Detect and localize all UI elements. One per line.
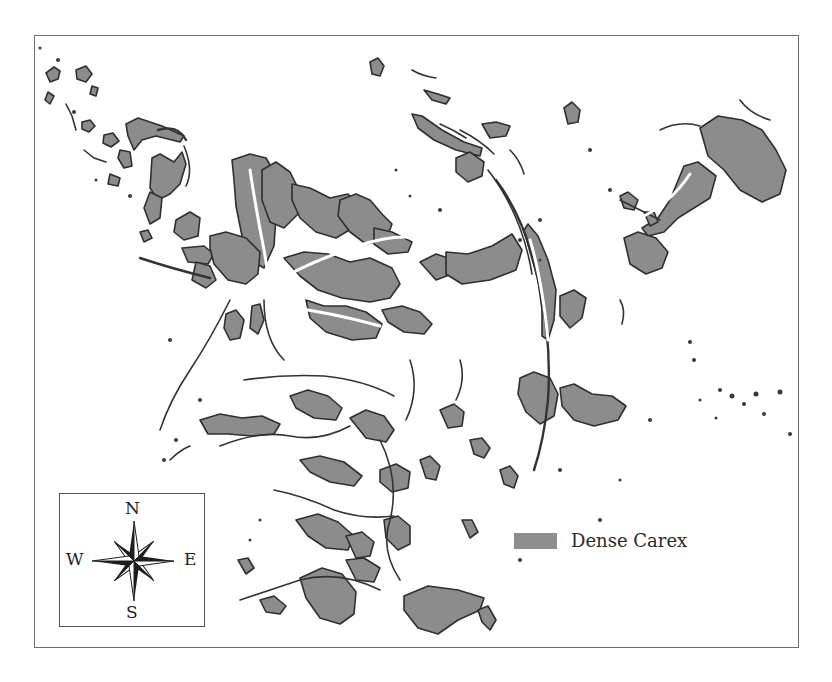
- compass-south-label: S: [126, 602, 138, 622]
- compass-east-label: E: [184, 549, 196, 569]
- compass-north-label: N: [125, 498, 140, 518]
- compass-rose-icon: [90, 518, 178, 604]
- legend-swatch-dense-carex: [514, 533, 557, 549]
- compass-west-label: W: [66, 549, 83, 569]
- legend-label-dense-carex: Dense Carex: [571, 530, 687, 551]
- map-legend: Dense Carex: [514, 530, 687, 551]
- compass-panel: N S W E: [59, 493, 205, 627]
